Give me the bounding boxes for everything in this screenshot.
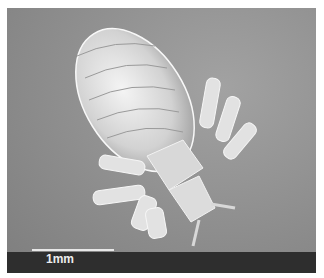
scale-bar: [32, 249, 114, 251]
louse-specimen: [7, 8, 316, 273]
micrograph: [7, 8, 316, 273]
head: [169, 176, 235, 246]
scale-bar-label: 1mm: [46, 252, 74, 266]
